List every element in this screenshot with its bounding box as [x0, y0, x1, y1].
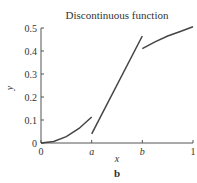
y-tick-label: 0.1 — [25, 115, 38, 126]
y-tick-label: 0.5 — [25, 23, 38, 34]
y-tick-label: 0.4 — [25, 46, 38, 57]
x-tick-label: 0 — [39, 146, 44, 157]
y-tick-label: 0 — [32, 138, 37, 149]
y-tick-label: 0.3 — [25, 69, 38, 80]
segment-1-line — [41, 117, 92, 143]
chart: Discontinuous function 00.10.20.30.40.5 … — [0, 0, 197, 183]
x-tick-label: 1 — [191, 146, 196, 157]
segment-3-line — [142, 27, 193, 49]
chart-title: Discontinuous function — [66, 9, 169, 21]
x-axis-label: x — [114, 153, 120, 164]
y-tick-label: 0.2 — [25, 92, 38, 103]
x-tick-label: b — [140, 146, 145, 157]
y-axis-label: y — [4, 85, 15, 91]
x-tick-label: a — [89, 146, 94, 157]
panel-label: b — [114, 167, 120, 179]
plot-lines — [41, 27, 193, 143]
segment-2-line — [92, 36, 143, 134]
